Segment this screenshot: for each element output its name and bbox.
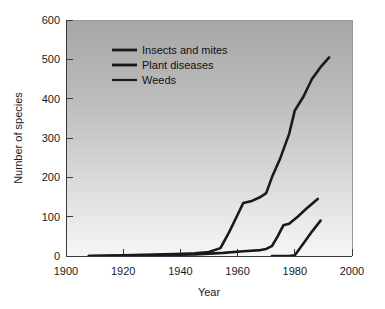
x-tick-label: 1900 (54, 265, 78, 277)
legend-label-plant-diseases: Plant diseases (142, 59, 214, 71)
y-tick-label: 0 (54, 250, 60, 262)
x-tick-label: 2000 (340, 265, 364, 277)
legend-label-weeds: Weeds (142, 74, 177, 86)
y-tick-label: 300 (42, 132, 60, 144)
y-tick-label: 600 (42, 14, 60, 26)
x-tick-label: 1940 (168, 265, 192, 277)
x-tick-label: 1920 (111, 265, 135, 277)
chart-figure: 600 500 400 300 200 100 0 1900 1920 1940… (0, 0, 385, 309)
y-tick-labels: 600 500 400 300 200 100 0 (42, 14, 60, 262)
y-axis-title: Number of species (12, 92, 24, 184)
y-tick-label: 100 (42, 211, 60, 223)
y-tick-label: 400 (42, 93, 60, 105)
line-chart: 600 500 400 300 200 100 0 1900 1920 1940… (0, 0, 385, 309)
x-tick-label: 1960 (225, 265, 249, 277)
legend-label-insects-and-mites: Insects and mites (142, 44, 228, 56)
x-axis-title: Year (198, 286, 221, 298)
x-tick-label: 1980 (283, 265, 307, 277)
x-tick-labels: 1900 1920 1940 1960 1980 2000 (54, 265, 364, 277)
y-tick-label: 200 (42, 171, 60, 183)
y-tick-label: 500 (42, 53, 60, 65)
